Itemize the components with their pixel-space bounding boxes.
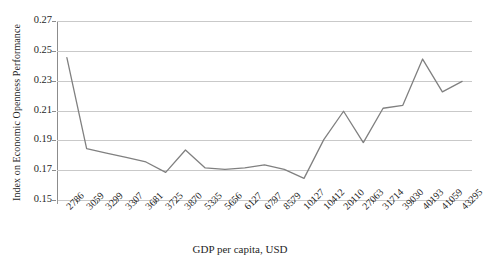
x-axis-tick-mark — [57, 200, 58, 204]
x-axis-tick-label: 27063 — [360, 186, 385, 211]
x-axis-tick-label: 3725 — [163, 190, 185, 212]
x-axis-tick-label: 6127 — [242, 190, 264, 212]
x-axis-tick-label: 8579 — [281, 190, 303, 212]
x-axis-tick-label: 3299 — [103, 190, 125, 212]
x-axis-tick-label: 40193 — [420, 186, 445, 211]
x-axis-tick-label: 43295 — [459, 186, 484, 211]
x-axis-tick-label: 5656 — [222, 190, 244, 212]
x-axis-tick-label: 6797 — [262, 190, 284, 212]
x-axis-tick-label: 3307 — [123, 190, 145, 212]
x-axis-tick-label: 41059 — [439, 186, 464, 211]
x-axis-tick-label: 2786 — [64, 190, 86, 212]
x-axis-tick-label: 10127 — [301, 186, 326, 211]
x-axis-tick-label: 10412 — [321, 186, 346, 211]
x-axis-title: GDP per capita, USD — [0, 243, 480, 255]
x-axis-tick-label: 3059 — [84, 190, 106, 212]
x-axis-tick-label: 5335 — [202, 190, 224, 212]
x-axis-tick-label: 20110 — [341, 187, 366, 212]
x-axis-tick-label: 3870 — [182, 190, 204, 212]
x-axis-tick-label: 39030 — [400, 186, 425, 211]
x-axis-tick-label: 31714 — [380, 186, 405, 211]
x-axis-tick-label: 3681 — [143, 190, 165, 212]
